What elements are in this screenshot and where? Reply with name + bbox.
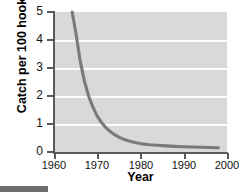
y-tick-mark-0 [47, 151, 53, 153]
data-series-line [54, 12, 227, 152]
y-tick-mark-3 [47, 67, 53, 69]
y-axis-title: Catch per 100 hooks [15, 0, 29, 122]
y-axis-line [53, 11, 55, 153]
y-tick-mark-1 [47, 123, 53, 125]
y-tick-mark-2 [47, 95, 53, 97]
y-tick-mark-4 [47, 39, 53, 41]
y-tick-mark-5 [47, 11, 53, 13]
chart-figure: 5 4 3 2 1 0 1960 1970 1980 1990 2000 Cat… [0, 0, 240, 195]
y-tick-label-0: 0 [19, 145, 43, 157]
x-axis-title: Year [54, 170, 227, 184]
crop-artifact-bar [0, 186, 48, 192]
